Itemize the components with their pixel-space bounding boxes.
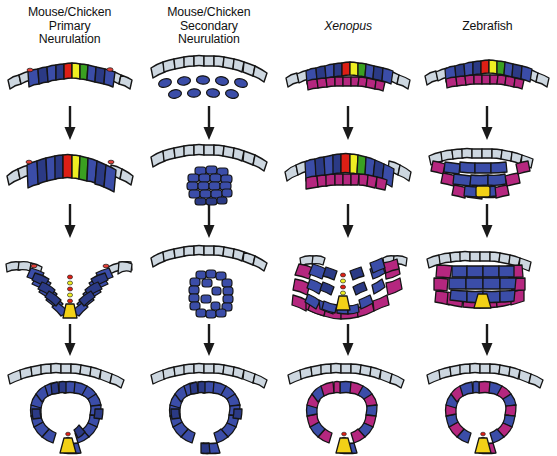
header-line: Primary: [0, 20, 139, 34]
column-headers: Mouse/Chicken Primary Neurulation Mouse/…: [0, 0, 557, 52]
stage-arrow: [0, 200, 139, 242]
stage-cavitation: [139, 242, 278, 320]
stage-neural-plate-thickening: [279, 144, 418, 200]
stage-neural-tube: [418, 360, 557, 456]
stage-arrow: [279, 320, 418, 360]
down-arrow-icon: [340, 203, 356, 239]
column-header-xenopus: Xenopus: [279, 0, 418, 52]
stage-arrow: [418, 200, 557, 242]
down-arrow-icon: [62, 203, 78, 239]
header-line: Zebrafish: [418, 20, 557, 34]
stage-neural-plate-bilayer: [279, 50, 418, 102]
stage-neural-groove: [0, 242, 139, 320]
down-arrow-icon: [62, 105, 78, 141]
down-arrow-icon: [479, 323, 495, 357]
stage-arrow: [418, 320, 557, 360]
stage-neural-rod: [418, 242, 557, 320]
header-line: Neurulation: [0, 33, 139, 47]
stage-neural-tube: [0, 360, 139, 456]
column-xenopus: [279, 50, 418, 438]
down-arrow-icon: [479, 203, 495, 239]
down-arrow-icon: [201, 105, 217, 141]
stage-columns: [0, 50, 557, 438]
header-line: Neurulation: [139, 33, 278, 47]
down-arrow-icon: [340, 323, 356, 357]
column-header-mouse-chicken-primary: Mouse/Chicken Primary Neurulation: [0, 0, 139, 52]
header-line: Mouse/Chicken: [139, 6, 278, 20]
column-mouse-chicken-primary: [0, 50, 139, 438]
stage-arrow: [279, 102, 418, 144]
header-line: Mouse/Chicken: [0, 6, 139, 20]
stage-arrow: [139, 200, 278, 242]
stage-neural-plate: [418, 50, 557, 102]
stage-arrow: [279, 200, 418, 242]
stage-arrow: [0, 102, 139, 144]
stage-arrow: [0, 320, 139, 360]
header-line: Xenopus: [279, 20, 418, 34]
down-arrow-icon: [479, 105, 495, 141]
stage-neural-tube: [139, 360, 278, 456]
stage-arrow: [418, 102, 557, 144]
stage-arrow: [139, 320, 278, 360]
stage-neural-tube: [279, 360, 418, 456]
stage-neural-plate-shaping: [0, 144, 139, 200]
down-arrow-icon: [62, 323, 78, 357]
header-line: Secondary: [139, 20, 278, 34]
column-mouse-chicken-secondary: [139, 50, 278, 438]
stage-neural-plate: [0, 50, 139, 102]
down-arrow-icon: [201, 203, 217, 239]
down-arrow-icon: [340, 105, 356, 141]
stage-neural-keel: [418, 144, 557, 200]
stage-medullary-cord: [139, 144, 278, 200]
stage-arrow: [139, 102, 278, 144]
column-zebrafish: [418, 50, 557, 438]
down-arrow-icon: [201, 323, 217, 357]
stage-mesenchymal-cells: [139, 50, 278, 102]
column-header-zebrafish: Zebrafish: [418, 0, 557, 52]
column-header-mouse-chicken-secondary: Mouse/Chicken Secondary Neurulation: [139, 0, 278, 52]
stage-neural-groove: [279, 242, 418, 320]
